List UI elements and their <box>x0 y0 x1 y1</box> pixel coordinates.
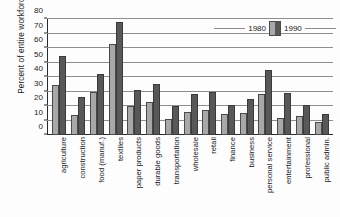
bar-1980 <box>127 106 134 135</box>
x-axis-label-cell: textiles <box>106 137 125 215</box>
x-axis-label-cell: paper products <box>125 137 144 215</box>
x-axis-label-cell: transportation <box>162 137 181 215</box>
bar-group <box>125 19 144 135</box>
bar-1980 <box>71 115 78 135</box>
bar-1980 <box>296 116 303 135</box>
x-axis-tick-label: paper products <box>134 137 143 188</box>
bar-group <box>200 19 219 135</box>
bar-group <box>87 19 106 135</box>
plot-area: 01020304050607080 <box>47 19 333 135</box>
bar-1990 <box>322 114 329 135</box>
bar-chart: Percent of entire workforce 010203040506… <box>0 0 340 217</box>
bar-group <box>219 19 238 135</box>
bar-1990 <box>303 105 310 135</box>
x-axis-label-cell: professional <box>294 137 313 215</box>
bar-groups <box>47 19 333 135</box>
x-axis-label-cell: entertainment <box>275 137 294 215</box>
bar-1980 <box>52 85 59 135</box>
x-axis-label-cell: agriculture <box>50 137 69 215</box>
bar-1980 <box>202 110 209 135</box>
x-axis-tick-label: transportation <box>172 137 181 184</box>
bar-1980 <box>90 92 97 135</box>
bar-1980 <box>165 119 172 135</box>
y-axis-tick-label: 0 <box>39 122 43 131</box>
x-axis-labels: agricultureconstructionfood (manuf.)text… <box>47 137 333 215</box>
legend: 1980 1990 <box>214 21 336 36</box>
bar-1990 <box>228 105 235 135</box>
bar-1980 <box>277 118 284 135</box>
bar-group <box>162 19 181 135</box>
bar-group <box>312 19 331 135</box>
x-axis-tick-label: public admin. <box>322 137 331 182</box>
x-axis-label-cell: construction <box>69 137 88 215</box>
x-axis-label-cell: food (manuf.) <box>87 137 106 215</box>
bar-group <box>106 19 125 135</box>
bar-1990 <box>116 22 123 135</box>
y-axis-tick-label: 10 <box>34 107 43 116</box>
y-axis-title: Percent of entire workforce <box>17 0 26 109</box>
bar-1980 <box>315 122 322 135</box>
bar-1980 <box>109 44 116 135</box>
y-axis-tick-label: 30 <box>34 78 43 87</box>
legend-swatch <box>269 21 281 36</box>
bar-1980 <box>258 94 265 135</box>
x-axis-label-cell: wholesale <box>181 137 200 215</box>
x-axis-tick-label: business <box>247 137 256 167</box>
x-axis-tick-label: retail <box>209 137 218 154</box>
bar-1990 <box>209 92 216 136</box>
y-axis-tick-label: 80 <box>34 6 43 15</box>
bar-group <box>237 19 256 135</box>
legend-rule-left <box>214 28 245 29</box>
x-axis-label-cell: public admin. <box>312 137 331 215</box>
bar-1990 <box>247 99 254 135</box>
legend-swatch-1990 <box>275 22 280 35</box>
bar-group <box>256 19 275 135</box>
x-axis-label-cell: personal service <box>256 137 275 215</box>
x-axis-tick-label: durable goods <box>153 137 162 186</box>
bar-1990 <box>59 56 66 135</box>
bar-1990 <box>97 74 104 135</box>
bar-1990 <box>153 84 160 135</box>
bar-group <box>50 19 69 135</box>
x-axis-tick-label: entertainment <box>284 137 293 184</box>
bar-group <box>69 19 88 135</box>
y-axis-tick-label: 50 <box>34 49 43 58</box>
y-axis-tick-label: 70 <box>34 20 43 29</box>
bar-1980 <box>184 112 191 135</box>
x-axis-label-cell: business <box>237 137 256 215</box>
x-axis-label-cell: retail <box>200 137 219 215</box>
bar-group <box>294 19 313 135</box>
x-axis-tick-label: personal service <box>265 137 274 193</box>
x-axis-tick-label: construction <box>78 137 87 179</box>
legend-label-1990: 1990 <box>281 24 305 33</box>
x-axis-tick-label: textiles <box>116 137 125 161</box>
x-axis-label-cell: finance <box>219 137 238 215</box>
y-axis-tick-label: 40 <box>34 64 43 73</box>
y-axis-tick-label: 60 <box>34 35 43 44</box>
x-axis-tick-label: food (manuf.) <box>97 137 106 183</box>
bar-1980 <box>146 102 153 135</box>
bar-group <box>275 19 294 135</box>
bar-group <box>144 19 163 135</box>
x-axis-tick-label: wholesale <box>191 137 200 171</box>
bar-1990 <box>172 106 179 135</box>
bar-1990 <box>191 94 198 135</box>
legend-rule-right <box>305 28 336 29</box>
bar-1990 <box>265 70 272 135</box>
y-axis-tick-label: 20 <box>34 93 43 102</box>
x-axis-tick-label: agriculture <box>59 137 68 173</box>
x-axis-tick-label: finance <box>228 137 237 162</box>
bar-1990 <box>284 93 291 135</box>
x-axis-tick-label: professional <box>303 137 312 179</box>
bar-1980 <box>240 113 247 135</box>
x-axis-label-cell: durable goods <box>144 137 163 215</box>
bar-1990 <box>78 97 85 135</box>
legend-label-1980: 1980 <box>245 24 269 33</box>
bar-1990 <box>134 90 141 135</box>
bar-1980 <box>221 114 228 135</box>
bar-group <box>181 19 200 135</box>
